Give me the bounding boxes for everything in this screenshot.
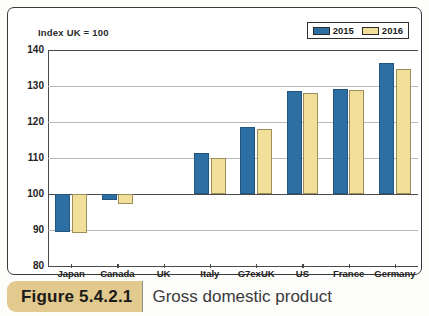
bar-japan-2016 <box>72 194 87 233</box>
y-tick-label-110: 110 <box>18 152 44 163</box>
gridline-90 <box>48 230 418 231</box>
x-tick-label-uk: UK <box>157 268 171 279</box>
figure-number-banner: Figure 5.4.2.1 <box>7 281 143 312</box>
chart-legend: 2015 2016 <box>307 22 409 39</box>
legend-label-2015: 2015 <box>333 25 354 36</box>
bar-germany-2016 <box>396 69 411 194</box>
gridline-140 <box>48 50 418 51</box>
bar-canada-2015 <box>102 194 117 200</box>
legend-item-2016: 2016 <box>362 25 403 36</box>
y-tick-label-100: 100 <box>18 188 44 199</box>
figure-panel: Index UK = 100 2015 2016 809010011012013… <box>0 0 429 316</box>
figure-caption-text: Gross domestic product <box>143 281 422 312</box>
bar-france-2016 <box>349 90 364 194</box>
plot-area <box>48 50 418 266</box>
blue-swatch-icon <box>313 27 330 35</box>
bar-italy-2015 <box>194 153 209 194</box>
gridline-130 <box>48 86 418 87</box>
bar-us-2015 <box>287 91 302 194</box>
bar-canada-2016 <box>118 194 133 204</box>
x-tick-label-germany: Germany <box>374 268 415 279</box>
x-tick-label-g7exuk: G7exUK <box>238 268 275 279</box>
x-tick-label-us: US <box>296 268 309 279</box>
legend-label-2016: 2016 <box>382 25 403 36</box>
y-tick-label-140: 140 <box>18 44 44 55</box>
bar-japan-2015 <box>55 194 70 232</box>
bar-g7exuk-2015 <box>240 127 255 194</box>
bar-us-2016 <box>303 93 318 194</box>
y-tick-label-80: 80 <box>18 260 44 271</box>
x-tick-label-france: France <box>333 268 364 279</box>
bar-germany-2015 <box>379 63 394 194</box>
x-tick-label-canada: Canada <box>100 268 134 279</box>
bar-g7exuk-2016 <box>257 129 272 194</box>
bar-italy-2016 <box>211 158 226 194</box>
y-axis-tick-labels: 8090100110120130140 <box>14 50 44 266</box>
gridline-80 <box>48 266 418 267</box>
x-tick-label-japan: Japan <box>57 268 84 279</box>
yellow-swatch-icon <box>362 27 379 35</box>
legend-item-2015: 2015 <box>313 25 354 36</box>
bar-france-2015 <box>333 89 348 194</box>
chart-subtitle: Index UK = 100 <box>38 27 109 38</box>
y-tick-label-130: 130 <box>18 80 44 91</box>
y-tick-label-90: 90 <box>18 224 44 235</box>
chart-frame: Index UK = 100 2015 2016 809010011012013… <box>7 7 422 275</box>
figure-caption-bar: Figure 5.4.2.1 Gross domestic product <box>7 281 422 312</box>
x-tick-label-italy: Italy <box>200 268 219 279</box>
figure-number-label: Figure 5.4.2.1 <box>21 287 132 307</box>
y-tick-label-120: 120 <box>18 116 44 127</box>
